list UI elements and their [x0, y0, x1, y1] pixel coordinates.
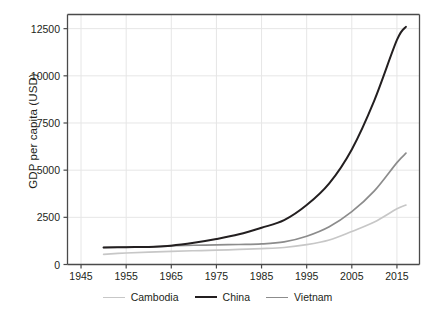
- legend-label: Vietnam: [294, 291, 332, 303]
- legend-line-swatch-icon: [266, 297, 288, 298]
- legend-item-vietnam[interactable]: Vietnam: [266, 291, 332, 303]
- legend-item-cambodia[interactable]: Cambodia: [103, 291, 179, 303]
- gdp-per-capita-line-chart: GDP per capita (USD) 0250050007500100001…: [0, 0, 435, 325]
- data-series-lines: [104, 27, 406, 255]
- grid-lines: [68, 15, 420, 265]
- legend-label: China: [223, 291, 250, 303]
- series-line-china: [104, 27, 406, 248]
- series-line-vietnam: [104, 153, 406, 247]
- legend-label: Cambodia: [131, 291, 179, 303]
- plot-area: [0, 0, 435, 325]
- legend-item-china[interactable]: China: [195, 291, 250, 303]
- axis-lines: [68, 15, 420, 265]
- legend-line-swatch-icon: [103, 297, 125, 298]
- chart-legend: CambodiaChinaVietnam: [0, 291, 435, 303]
- legend-line-swatch-icon: [195, 296, 217, 298]
